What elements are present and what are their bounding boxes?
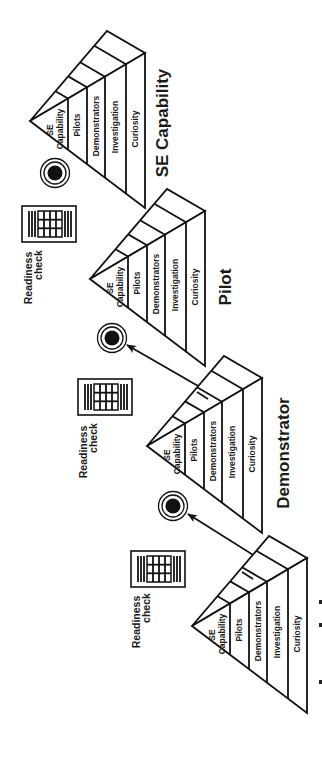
layer-label-curiosity: Curiosity [292,615,302,652]
layer-label-demonstrators: Demonstrators [208,421,218,482]
stage-title: Pilot [216,268,235,305]
layer-label-curiosity: Curiosity [247,435,257,472]
readiness-pyramid-diagram: SE Capability Pilots Demonstrators Inves… [0,0,322,757]
bullseye-target-icon [41,159,70,188]
layer-label-se: SE [207,629,217,641]
layer-label-demonstrators: Demonstrators [253,601,263,662]
layer-label-capability: Capability [55,108,65,149]
layer-label-investigation: Investigation [110,101,120,153]
bullseye-target-icon [159,492,188,521]
layer-label-pilots: Pilots [189,438,199,461]
layer-label-demonstrators: Demonstrators [151,254,161,315]
stage-title: Demonstrator [274,397,293,509]
readiness-check-3: Readiness check [130,551,185,648]
layer-label-investigation: Investigation [170,259,180,311]
layer-label-capability: Capability [115,266,125,307]
readiness-label-line2: check [32,250,44,280]
layer-label-se: SE [162,449,172,461]
layer-label-se: SE [105,282,115,294]
layer-label-se: SE [45,124,55,136]
pyramid-demonstrator: SE Capability Pilots Demonstrators Inves… [147,356,262,533]
layer-label-investigation: Investigation [227,426,237,478]
layer-label-curiosity: Curiosity [130,110,140,147]
checklist-document-icon [78,379,132,415]
readiness-label-line2: check [140,593,152,623]
layer-label-pilots: Pilots [234,618,244,641]
layer-label-capability: Capability [172,433,182,474]
bullseye-target-icon [98,324,127,353]
readiness-check-1: Readiness check [22,206,76,304]
layer-label-pilots: Pilots [72,113,82,136]
layer-label-investigation: Investigation [272,606,282,658]
layer-label-demonstrators: Demonstrators [91,96,101,157]
readiness-label-line2: check [87,423,99,453]
layer-label-pilots: Pilots [132,271,142,294]
readiness-check-2: Readiness check [77,379,132,478]
stage-title: SE Capability [153,68,172,177]
checklist-document-icon [131,551,185,587]
layer-label-capability: Capability [217,613,227,654]
layer-label-curiosity: Curiosity [190,268,200,305]
pyramid-investigation: SE Capability Pilots Demonstrators Inves… [192,536,307,713]
checklist-document-icon [22,206,76,242]
